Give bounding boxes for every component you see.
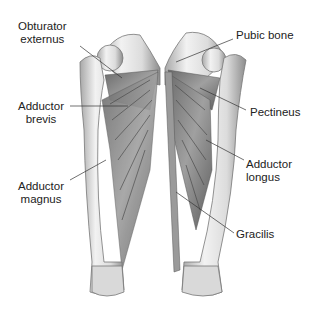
- label-line: Gracilis: [236, 228, 274, 241]
- label-obturator-externus: Obturator externus: [18, 20, 67, 46]
- label-line: brevis: [18, 113, 64, 126]
- label-line: Pectineus: [250, 106, 301, 119]
- left-adductor-muscles: [102, 70, 158, 270]
- label-line: externus: [18, 33, 67, 46]
- label-line: Adductor: [246, 158, 292, 171]
- label-line: Pubic bone: [236, 29, 294, 42]
- label-line: magnus: [18, 193, 64, 206]
- label-adductor-longus: Adductor longus: [246, 158, 292, 184]
- label-line: Adductor: [18, 180, 64, 193]
- label-line: Adductor: [18, 100, 64, 113]
- label-line: Obturator: [18, 20, 67, 33]
- label-adductor-magnus: Adductor magnus: [18, 180, 64, 206]
- anatomy-illustration: [0, 0, 326, 313]
- adductor-muscles-diagram: Obturator externus Adductor brevis Adduc…: [0, 0, 326, 313]
- label-pectineus: Pectineus: [250, 106, 301, 119]
- label-adductor-brevis: Adductor brevis: [18, 100, 64, 126]
- label-line: longus: [246, 171, 292, 184]
- label-gracilis: Gracilis: [236, 228, 274, 241]
- label-pubic-bone: Pubic bone: [236, 29, 294, 42]
